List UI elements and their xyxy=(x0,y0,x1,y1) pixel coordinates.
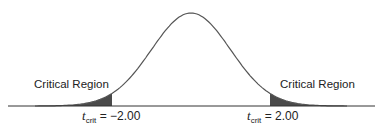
equals-sign: = xyxy=(261,109,275,123)
critical-value: −2.00 xyxy=(110,109,140,123)
right-critical-value-label: tcrit = 2.00 xyxy=(247,108,298,125)
right-critical-region-label: Critical Region xyxy=(280,78,355,90)
distribution-curve xyxy=(35,13,347,106)
crit-subscript: crit xyxy=(251,116,262,125)
crit-subscript: crit xyxy=(86,116,97,125)
critical-value: 2.00 xyxy=(275,109,298,123)
left-critical-region-label: Critical Region xyxy=(34,78,109,90)
distribution-figure xyxy=(0,0,383,128)
equals-sign: = xyxy=(96,109,110,123)
t-distribution-diagram: Critical Region Critical Region tcrit = … xyxy=(0,0,383,128)
left-critical-value-label: tcrit = −2.00 xyxy=(82,108,140,125)
